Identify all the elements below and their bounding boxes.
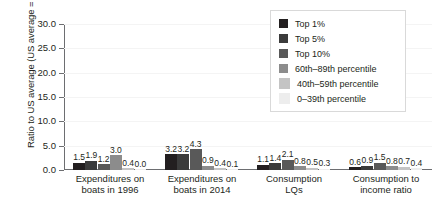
- bar[interactable]: 4.3: [190, 149, 202, 170]
- x-axis-label-line: LQs: [248, 184, 340, 195]
- legend-swatch-icon: [279, 34, 288, 43]
- x-axis-label: ConsumptionLQs: [248, 173, 340, 195]
- bar-value-label: 3.2: [165, 145, 177, 154]
- legend-item[interactable]: 0–39th percentile: [279, 91, 399, 106]
- legend-item[interactable]: 40th–59th percentile: [279, 76, 399, 91]
- bar-value-label: 1.2: [98, 155, 110, 164]
- y-tick-mark: [59, 170, 64, 171]
- x-axis-label-line: Consumption: [248, 173, 340, 184]
- bar-value-label: 0.8: [386, 157, 398, 166]
- bar-value-label: 0.5: [306, 158, 318, 167]
- legend-swatch-icon: [279, 19, 288, 28]
- bar-value-label: 0.4: [214, 159, 226, 168]
- legend-item-label: 40th–59th percentile: [297, 79, 379, 89]
- legend-item-label: Top 5%: [295, 34, 325, 44]
- bar-value-label: 0.9: [361, 156, 373, 165]
- x-axis-label: Expenditures onboats in 1996: [64, 173, 156, 195]
- bar[interactable]: 0.4: [411, 168, 423, 170]
- bar-value-label: 1.4: [269, 154, 281, 163]
- bar[interactable]: 0.4: [122, 168, 134, 170]
- bar-group: 1.51.91.23.00.40.0: [73, 24, 147, 170]
- x-axis-label-line: boats in 2014: [156, 184, 248, 195]
- bar-value-label: 3.0: [110, 146, 122, 155]
- bar[interactable]: 3.0: [110, 155, 122, 170]
- y-tick-label: 5.0: [2, 140, 56, 151]
- y-tick-label: 30.0: [2, 18, 56, 29]
- y-tick-label: 25.0: [2, 42, 56, 53]
- legend-swatch-icon: [279, 49, 288, 58]
- bar[interactable]: 0.8: [386, 166, 398, 170]
- bar[interactable]: 0.7: [398, 167, 410, 170]
- bar-value-label: 0.1: [227, 160, 239, 169]
- bar-value-label: 0.3: [319, 159, 331, 168]
- legend-swatch-icon: [279, 78, 290, 89]
- y-tick-label: 20.0: [2, 67, 56, 78]
- x-axis-label-line: Expenditures on: [156, 173, 248, 184]
- x-axis-label-line: Expenditures on: [64, 173, 156, 184]
- bar[interactable]: 0.1: [227, 169, 239, 170]
- bar-value-label: 0.4: [411, 159, 423, 168]
- x-axis-label: Expenditures onboats in 2014: [156, 173, 248, 195]
- y-tick-label: 0.0: [2, 164, 56, 175]
- legend-item-label: 60th–89th percentile: [295, 64, 377, 74]
- legend-swatch-icon: [279, 64, 288, 73]
- bar-value-label: 1.5: [73, 153, 85, 162]
- legend-item[interactable]: Top 10%: [279, 46, 399, 61]
- x-axis-label-line: boats in 1996: [64, 184, 156, 195]
- bar[interactable]: 0.4: [214, 168, 226, 170]
- bar[interactable]: 0.5: [306, 168, 318, 170]
- bar-value-label: 0.4: [122, 159, 134, 168]
- bar-value-label: 0.0: [135, 160, 147, 169]
- legend-swatch-icon: [279, 93, 290, 104]
- bar[interactable]: 1.5: [374, 163, 386, 170]
- legend-item-label: Top 10%: [295, 49, 330, 59]
- legend-item-label: 0–39th percentile: [297, 94, 366, 104]
- chart-legend: Top 1%Top 5%Top 10%60th–89th percentile4…: [270, 10, 406, 112]
- bar[interactable]: 2.1: [282, 160, 294, 170]
- y-tick-label: 10.0: [2, 115, 56, 126]
- legend-item[interactable]: 60th–89th percentile: [279, 61, 399, 76]
- legend-item[interactable]: Top 5%: [279, 31, 399, 46]
- bar[interactable]: 0.8: [294, 166, 306, 170]
- bar-value-label: 0.7: [398, 157, 410, 166]
- bar[interactable]: 0.0: [135, 169, 147, 170]
- bar[interactable]: 1.2: [98, 164, 110, 170]
- bar[interactable]: 1.9: [85, 161, 97, 170]
- bar-value-label: 1.1: [257, 155, 269, 164]
- bar-value-label: 0.8: [294, 157, 306, 166]
- bar[interactable]: 0.9: [202, 166, 214, 170]
- bar-value-label: 1.9: [85, 151, 97, 160]
- bar-group: 3.23.24.30.90.40.1: [165, 24, 239, 170]
- bar[interactable]: 0.6: [349, 167, 361, 170]
- x-axis-label: Consumption toincome ratio: [340, 173, 432, 195]
- bar-value-label: 0.6: [349, 158, 361, 167]
- bar[interactable]: 1.5: [73, 163, 85, 170]
- bar[interactable]: 1.1: [257, 165, 269, 170]
- legend-item[interactable]: Top 1%: [279, 16, 399, 31]
- bar[interactable]: 3.2: [177, 154, 189, 170]
- bar[interactable]: 0.3: [319, 169, 331, 170]
- bar-chart: Ratio to US average (US average = 1.0) 0…: [0, 0, 436, 218]
- bar-value-label: 1.5: [374, 153, 386, 162]
- bar-value-label: 2.1: [282, 150, 294, 159]
- x-axis-label-line: Consumption to: [340, 173, 432, 184]
- bar-value-label: 0.9: [202, 156, 214, 165]
- y-tick-label: 15.0: [2, 91, 56, 102]
- bar[interactable]: 3.2: [165, 154, 177, 170]
- x-axis-label-line: income ratio: [340, 184, 432, 195]
- bar[interactable]: 0.9: [361, 166, 373, 170]
- bar[interactable]: 1.4: [269, 163, 281, 170]
- bar-value-label: 4.3: [190, 140, 202, 149]
- legend-item-label: Top 1%: [295, 19, 325, 29]
- bar-value-label: 3.2: [177, 145, 189, 154]
